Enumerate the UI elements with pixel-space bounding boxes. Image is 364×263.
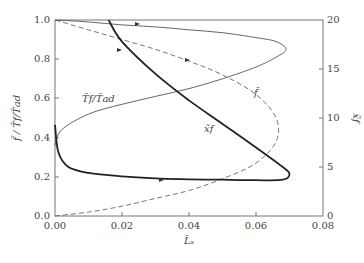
- y-left-tick-label: 0.0: [34, 210, 50, 221]
- y-left-tick-labels: 0.0 0.2 0.4 0.6 0.8 1.0: [34, 14, 50, 221]
- y-right-tick-label: 10: [327, 112, 340, 123]
- x-axis: [122, 212, 256, 216]
- x-tick-label: 0.00: [44, 220, 66, 231]
- curve-label-f: f̃: [253, 87, 260, 98]
- y-left-tick-label: 0.8: [34, 53, 50, 64]
- chart: 0.00 0.02 0.04 0.06 0.08 L̃ₛ 0.0 0.2 0.4…: [0, 0, 364, 263]
- f-dashed-curve: [55, 20, 279, 216]
- temperature-ratio-curve: [55, 20, 286, 145]
- curve-label-flame-position: x̃f: [204, 123, 216, 134]
- curves: [55, 20, 290, 216]
- y-left-tick-label: 0.2: [34, 171, 50, 182]
- y-right-tick-labels: 0 5 10 15 20: [327, 14, 340, 221]
- y-left-axis: [55, 59, 59, 177]
- x-tick-label: 0.06: [245, 220, 267, 231]
- y-right-tick-label: 15: [327, 63, 340, 74]
- y-left-tick-label: 0.6: [34, 92, 50, 103]
- y-left-axis-label: f̃ / T̃f/T̃ad: [11, 95, 22, 142]
- x-tick-label: 0.02: [111, 220, 133, 231]
- x-tick-labels: 0.00 0.02 0.04 0.06 0.08: [44, 220, 334, 231]
- y-right-axis: [319, 69, 323, 167]
- curve-label-temperature: T̃f/T̃ad: [82, 93, 115, 104]
- y-left-tick-label: 0.4: [34, 132, 50, 143]
- x-tick-label: 0.04: [178, 220, 200, 231]
- x-axis-label: L̃ₛ: [183, 235, 194, 246]
- y-right-tick-label: 20: [327, 14, 340, 25]
- y-right-tick-label: 0: [327, 210, 333, 221]
- plot-area-frame: [55, 20, 323, 216]
- y-left-tick-label: 1.0: [34, 14, 50, 25]
- direction-arrow-icon: [117, 48, 122, 52]
- y-right-tick-label: 5: [327, 161, 333, 172]
- y-right-axis-label: x̃f: [351, 113, 362, 125]
- x-tick-label: 0.08: [312, 220, 334, 231]
